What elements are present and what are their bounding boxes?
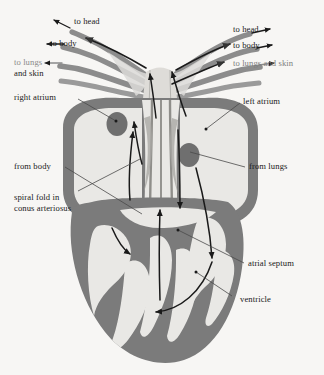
label-to-body-right: to body [233, 40, 260, 50]
label-ventricle: ventricle [240, 294, 271, 304]
label-to-lungs-left-line1: to lungs [14, 57, 42, 67]
label-to-head-left: to head [74, 16, 100, 26]
label-right-atrium: right atrium [14, 92, 56, 102]
label-left-atrium: left atrium [243, 96, 280, 106]
label-spiral-fold-line2: conus arteriosus [14, 203, 71, 213]
left-av-opening [179, 143, 200, 167]
heart-anatomy-diagram [0, 0, 324, 375]
right-av-opening [107, 112, 128, 136]
figure-canvas: to head to body to lungs and skin to hea… [0, 0, 324, 375]
flow-arrow-septum-up [159, 210, 160, 300]
label-to-head-right: to head [233, 24, 259, 34]
label-to-lungs-left-line2: and skin [14, 68, 44, 78]
label-to-lungs-right: to lungs and skin [233, 58, 293, 68]
label-to-body-left: to body [50, 38, 77, 48]
label-from-lungs: from lungs [249, 161, 287, 171]
label-from-body: from body [14, 161, 51, 171]
label-spiral-fold-line1: spiral fold in [14, 192, 59, 202]
label-atrial-septum: atrial septum [248, 258, 294, 268]
